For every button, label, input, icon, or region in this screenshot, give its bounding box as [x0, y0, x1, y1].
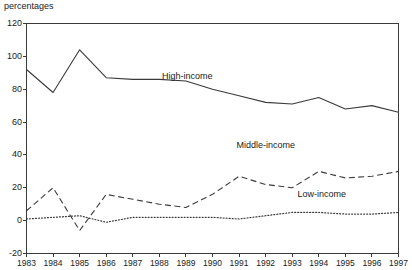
x-tick-label: 1997	[384, 259, 412, 268]
x-tick-label: 1989	[171, 259, 201, 268]
x-tick-label: 1986	[91, 259, 121, 268]
y-tick-label: 80	[0, 85, 22, 94]
x-tick-label: 1996	[357, 259, 387, 268]
x-tick-label: 1988	[144, 259, 174, 268]
y-tick-label: 100	[0, 52, 22, 61]
x-tick-label: 1993	[277, 259, 307, 268]
x-tick-label: 1994	[304, 259, 334, 268]
series-line-low-income	[27, 212, 399, 222]
x-tick-label: 1985	[65, 259, 95, 268]
y-tick-label: 60	[0, 118, 22, 127]
series-line-middle-income	[27, 171, 399, 230]
series-label-low-income: Low-income	[298, 189, 347, 199]
tick-marks-group	[23, 24, 399, 258]
series-label-high-income: High-income	[162, 71, 213, 81]
y-tick-label: 40	[0, 150, 22, 159]
y-tick-label: 20	[0, 183, 22, 192]
x-tick-label: 1995	[330, 259, 360, 268]
x-tick-label: 1983	[12, 259, 42, 268]
x-tick-label: 1991	[224, 259, 254, 268]
plot-area-svg	[0, 0, 412, 270]
x-tick-label: 1992	[251, 259, 281, 268]
x-tick-label: 1987	[118, 259, 148, 268]
y-tick-label: -20	[0, 249, 22, 258]
x-tick-label: 1990	[198, 259, 228, 268]
y-tick-label: 120	[0, 19, 22, 28]
x-tick-label: 1984	[38, 259, 68, 268]
series-label-middle-income: Middle-income	[236, 140, 295, 150]
y-tick-label: 0	[0, 216, 22, 225]
axes-group	[27, 24, 399, 254]
chart-container: percentages 120100806040200-20 198319841…	[0, 0, 412, 270]
